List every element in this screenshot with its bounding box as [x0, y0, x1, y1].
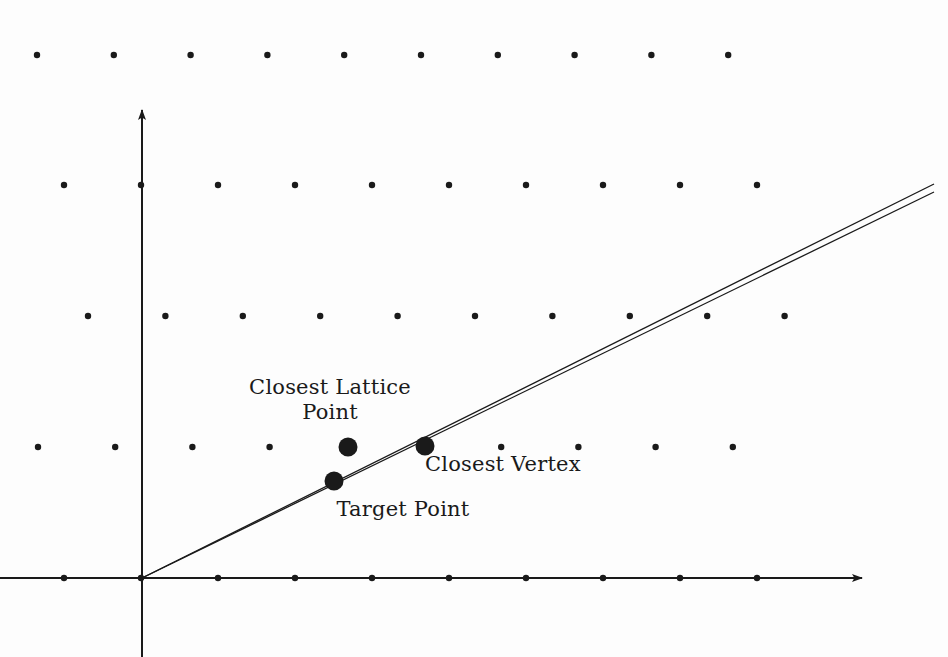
- lattice-point: [571, 52, 577, 58]
- lattice-point: [725, 52, 731, 58]
- lattice-point: [112, 444, 118, 450]
- lattice-point: [627, 313, 633, 319]
- label-target-point: Target Point: [337, 497, 470, 522]
- lattice-point: [523, 182, 529, 188]
- lattice-point: [394, 313, 400, 319]
- lattice-diagram-figure: Closest Lattice Point Closest Vertex Tar…: [0, 0, 948, 657]
- lattice-point: [35, 444, 41, 450]
- lattice-point: [754, 182, 760, 188]
- lattice-point: [704, 313, 710, 319]
- lattice-point: [34, 52, 40, 58]
- lattice-point: [187, 52, 193, 58]
- lattice-point: [85, 313, 91, 319]
- label-closest-lattice-point: Closest Lattice Point: [249, 375, 411, 425]
- lattice-point: [215, 182, 221, 188]
- lattice-point: [264, 52, 270, 58]
- lattice-point: [549, 313, 555, 319]
- lattice-point: [369, 182, 375, 188]
- lattice-point: [575, 444, 581, 450]
- lattice-point: [240, 313, 246, 319]
- lattice-point: [498, 444, 504, 450]
- lattice-point: [162, 313, 168, 319]
- lattice-point: [495, 52, 501, 58]
- lattice-point: [61, 182, 67, 188]
- lattice-point: [472, 313, 478, 319]
- lattice-point: [781, 313, 787, 319]
- diagram-canvas: [0, 0, 948, 657]
- closest-lattice-point: [339, 438, 358, 457]
- lattice-point: [266, 444, 272, 450]
- lattice-point: [600, 182, 606, 188]
- lattice-point: [446, 182, 452, 188]
- lattice-point: [317, 313, 323, 319]
- lattice-point: [292, 182, 298, 188]
- lattice-point: [648, 52, 654, 58]
- label-closest-vertex: Closest Vertex: [425, 452, 581, 477]
- highlighted-points: [325, 437, 435, 491]
- target-point: [325, 472, 344, 491]
- lattice-point: [730, 444, 736, 450]
- axes: [0, 110, 862, 657]
- lattice-point: [341, 52, 347, 58]
- lattice-point: [111, 52, 117, 58]
- lattice-point: [677, 182, 683, 188]
- lattice-point: [418, 52, 424, 58]
- lattice-point: [189, 444, 195, 450]
- lattice-point: [652, 444, 658, 450]
